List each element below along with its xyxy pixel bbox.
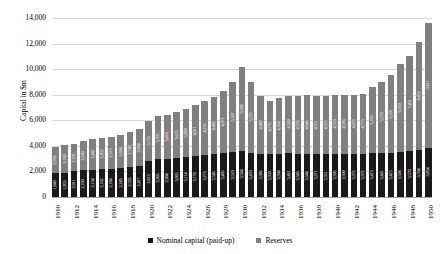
bar-segment-nominal-capital: 3,413 xyxy=(369,153,376,197)
bar-1941: 4,5863,390 xyxy=(341,95,348,197)
bar-1924: 3,8093,114 xyxy=(183,109,190,198)
bar-value-label: 3,421 xyxy=(286,171,290,180)
x-axis-tick-labels: 1910191219141916191819201922192419261928… xyxy=(52,199,432,231)
bar-value-label: 3,372 xyxy=(361,171,365,180)
bar-segment-reserves: 4,536 xyxy=(295,96,302,154)
bar-segment-reserves: 2,036 xyxy=(52,147,59,173)
bar-value-label: 3,441 xyxy=(380,171,384,180)
bar-segment-nominal-capital: 2,011 xyxy=(71,171,78,197)
x-axis-tick: 1926 xyxy=(201,199,208,231)
bar-value-label: 4,536 xyxy=(296,121,300,130)
bar-segment-reserves: 4,646 xyxy=(304,95,311,154)
bar-segment-reserves: 5,579 xyxy=(378,82,385,153)
bar-1913: 2,2492,109 xyxy=(80,141,87,197)
x-axis-tick: 1912 xyxy=(71,199,78,231)
bar-1947: 6,9103,508 xyxy=(397,64,404,197)
bar-value-label: 3,395 xyxy=(333,171,337,180)
bar-1948: 7,4513,570 xyxy=(406,56,413,197)
bar-1920: 3,1532,813 xyxy=(145,121,152,197)
x-axis-tick: 1922 xyxy=(164,199,171,231)
bar-segment-nominal-capital: 2,417 xyxy=(136,166,143,197)
bar-segment-reserves: 7,451 xyxy=(406,56,413,151)
bar-1923: 3,6153,065 xyxy=(173,112,180,197)
bar-segment-reserves: 2,442 xyxy=(89,139,96,170)
x-axis-tick xyxy=(229,199,236,231)
x-axis-tick xyxy=(248,199,255,231)
bar-segment-reserves: 6,910 xyxy=(397,64,404,152)
bar-segment-nominal-capital: 2,109 xyxy=(80,170,87,197)
bar-1916: 2,5132,184 xyxy=(108,137,115,197)
bar-value-label: 5,507 xyxy=(230,112,234,121)
bar-segment-nominal-capital: 3,371 xyxy=(313,154,320,197)
x-axis-tick xyxy=(267,199,274,231)
bar-value-label: 4,586 xyxy=(342,120,346,129)
y-axis-tick-label: 8,000 xyxy=(0,91,46,99)
x-axis-tick xyxy=(192,199,199,231)
bar-segment-nominal-capital: 2,134 xyxy=(89,170,96,197)
bar-1917: 2,6092,243 xyxy=(117,135,124,197)
x-axis-tick: 1916 xyxy=(108,199,115,231)
bar-segment-reserves: 4,553 xyxy=(323,96,330,154)
bar-value-label: 3,273 xyxy=(202,172,206,181)
x-axis-tick xyxy=(136,199,143,231)
bar-segment-reserves: 2,740 xyxy=(127,132,134,167)
bar-1944: 5,1633,413 xyxy=(369,87,376,197)
bar-1921: 3,3552,965 xyxy=(155,116,162,197)
bar-segment-nominal-capital: 3,508 xyxy=(397,152,404,197)
bar-value-label: 4,570 xyxy=(333,120,337,129)
bar-value-label: 3,390 xyxy=(342,171,346,180)
bar-value-label: 4,509 xyxy=(286,120,290,129)
bar-segment-nominal-capital: 3,372 xyxy=(360,154,367,197)
bar-1932: 4,4803,386 xyxy=(257,96,264,197)
x-axis-tick xyxy=(80,199,87,231)
bar-segment-nominal-capital: 2,243 xyxy=(117,168,124,197)
bar-segment-nominal-capital: 2,813 xyxy=(145,161,152,197)
bar-value-label: 5,579 xyxy=(380,113,384,122)
bar-segment-reserves: 4,350 xyxy=(276,98,283,154)
bar-1942: 4,6333,372 xyxy=(351,95,358,197)
x-axis-tick xyxy=(211,199,218,231)
bar-segment-reserves: 3,410 xyxy=(164,115,171,159)
x-axis-tick xyxy=(323,199,330,231)
bar-value-label: 2,180 xyxy=(63,155,67,164)
bar-value-label: 5,163 xyxy=(370,116,374,125)
bar-value-label: 3,834 xyxy=(426,168,430,177)
bar-1919: 2,8942,417 xyxy=(136,129,143,197)
bar-segment-reserves: 5,163 xyxy=(369,87,376,153)
bar-value-label: 2,609 xyxy=(118,147,122,156)
bar-value-label: 3,415 xyxy=(389,171,393,180)
bar-value-label: 2,965 xyxy=(156,174,160,183)
bar-value-label: 2,249 xyxy=(81,151,85,160)
bar-1934: 4,3503,394 xyxy=(276,98,283,197)
bar-segment-reserves: 4,509 xyxy=(285,96,292,154)
bar-segment-reserves: 4,872 xyxy=(220,91,227,153)
bar-value-label: 3,350 xyxy=(268,171,272,180)
bar-value-label: 3,704 xyxy=(417,169,421,178)
bar-value-label: 3,372 xyxy=(352,171,356,180)
bar-segment-nominal-capital: 2,965 xyxy=(155,159,162,197)
bar-value-label: 4,176 xyxy=(268,123,272,132)
bar-segment-nominal-capital: 3,421 xyxy=(285,153,292,197)
bar-value-label: 5,535 xyxy=(249,113,253,122)
bar-value-label: 3,153 xyxy=(146,136,150,145)
bar-segment-reserves: 4,480 xyxy=(257,96,264,153)
bar-1945: 5,5793,441 xyxy=(378,82,385,197)
bar-value-label: 2,994 xyxy=(165,173,169,182)
bar-1938: 4,5513,371 xyxy=(313,96,320,197)
bar-1936: 4,5363,343 xyxy=(295,96,302,197)
bar-value-label: 2,109 xyxy=(81,179,85,188)
bar-segment-nominal-capital: 1,853 xyxy=(61,173,68,197)
bar-1911: 2,1801,853 xyxy=(61,145,68,197)
x-axis-tick-label: 1950 xyxy=(428,205,435,219)
bar-value-label: 2,162 xyxy=(100,179,104,188)
bar-value-label: 2,134 xyxy=(91,179,95,188)
y-axis-tick-label: 6,000 xyxy=(0,116,46,124)
bar-value-label: 6,608 xyxy=(240,104,244,113)
bar-value-label: 3,410 xyxy=(165,132,169,141)
bar-value-label: 3,065 xyxy=(174,173,178,182)
bar-segment-nominal-capital: 2,335 xyxy=(127,167,134,197)
bar-segment-nominal-capital: 3,351 xyxy=(323,154,330,197)
bar-1918: 2,7402,335 xyxy=(127,132,134,197)
x-axis-tick xyxy=(360,199,367,231)
bar-segment-reserves: 4,633 xyxy=(351,95,358,154)
